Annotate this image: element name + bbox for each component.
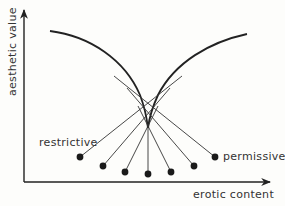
point-4 <box>145 171 152 178</box>
tangent-lines <box>80 76 215 174</box>
y-axis-label: aesthetic value <box>6 7 19 96</box>
restrictive-label: restrictive <box>39 136 98 149</box>
envelope-curve-right <box>148 34 247 128</box>
envelope-curve-left <box>50 31 148 128</box>
permissive-label: permissive <box>223 150 285 163</box>
point-2 <box>100 163 107 170</box>
x-axis-label: erotic content <box>193 188 274 201</box>
point-7 <box>212 154 219 161</box>
point-5 <box>168 169 175 176</box>
ideal-points <box>77 154 219 178</box>
point-3 <box>122 169 129 176</box>
diagram-canvas: aesthetic value erotic content restricti… <box>0 0 285 206</box>
point-1 <box>77 154 84 161</box>
point-6 <box>191 163 198 170</box>
